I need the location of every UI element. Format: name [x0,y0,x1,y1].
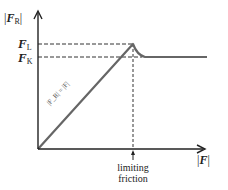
caption-line-1: limiting [108,162,158,173]
abs-bar-right: | [207,153,209,167]
force-symbol: F [18,36,27,51]
kinetic-level-label: FK [18,51,32,66]
force-subscript: K [27,57,33,66]
force-symbol: F [18,50,27,65]
x-axis-label: |F| [197,154,210,166]
friction-curve [38,44,207,149]
marker-arrowhead-icon [131,150,135,155]
limiting-friction-caption: limiting friction [108,162,158,184]
abs-bar-right: | [20,11,22,25]
caption-line-2: friction [108,173,158,184]
y-axis-label: |FR| [4,12,22,26]
